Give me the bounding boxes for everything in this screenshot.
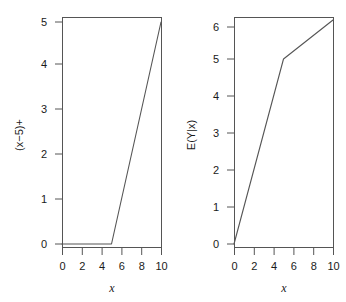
right-plot-frame [235, 18, 334, 248]
left-x-tick-label: 0 [59, 260, 65, 272]
right-y-tick-label: 5 [213, 53, 219, 65]
left-y-tick-mark [55, 22, 62, 244]
left-plot-frame [63, 18, 162, 248]
left-plot-svg: (x−5)+ 0 1 2 3 4 5 0 2 4 6 8 10 x [0, 0, 173, 302]
right-y-tick-label: 1 [213, 201, 219, 213]
left-y-tick-label: 0 [41, 238, 47, 250]
left-x-axis-label: x [108, 281, 115, 295]
hinge-function-plot: (x−5)+ 0 1 2 3 4 5 0 2 4 6 8 10 x [0, 0, 173, 302]
right-x-tick-label: 8 [311, 260, 317, 272]
right-x-tick-label: 4 [271, 260, 277, 272]
right-x-tick-label: 2 [251, 260, 257, 272]
left-y-tick-label: 1 [41, 193, 47, 205]
left-y-tick-label: 4 [41, 58, 47, 70]
left-y-axis-label: (x−5)+ [13, 119, 25, 151]
left-data-line [62, 22, 161, 244]
right-y-tick-label: 0 [213, 238, 219, 250]
left-y-tick-label: 5 [41, 16, 47, 28]
left-x-tick-label: 2 [79, 260, 85, 272]
right-y-tick-mark [227, 27, 234, 244]
right-x-tick-label: 10 [327, 260, 339, 272]
right-x-axis-label: x [280, 281, 287, 295]
left-x-tick-label: 6 [119, 260, 125, 272]
right-plot-svg: E(Y|x) 0 1 2 3 4 5 6 0 2 4 6 8 10 [173, 0, 346, 302]
right-y-tick-label: 4 [213, 90, 219, 102]
left-x-tick-label: 4 [99, 260, 105, 272]
figure-container: (x−5)+ 0 1 2 3 4 5 0 2 4 6 8 10 x [0, 0, 346, 302]
right-y-axis-label: E(Y|x) [185, 120, 197, 150]
left-x-tick-label: 10 [155, 260, 167, 272]
right-x-tick-label: 0 [231, 260, 237, 272]
right-y-tick-label: 6 [213, 21, 219, 33]
left-x-tick-mark [63, 248, 162, 255]
left-x-tick-label: 8 [139, 260, 145, 272]
right-y-tick-label: 2 [213, 164, 219, 176]
left-y-tick-label: 3 [41, 103, 47, 115]
right-data-line [234, 20, 333, 244]
conditional-expectation-plot: E(Y|x) 0 1 2 3 4 5 6 0 2 4 6 8 10 [173, 0, 346, 302]
right-y-tick-label: 3 [213, 127, 219, 139]
right-x-tick-label: 6 [291, 260, 297, 272]
left-y-tick-label: 2 [41, 148, 47, 160]
right-x-tick-mark [235, 248, 334, 255]
